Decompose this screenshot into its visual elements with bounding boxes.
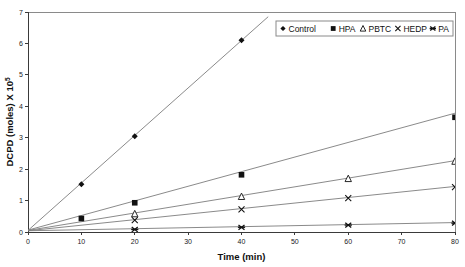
points-hpa — [79, 114, 458, 221]
data-point — [239, 206, 245, 212]
data-point — [452, 114, 458, 120]
legend: ControlHPAPBTCHEDPPA — [276, 21, 453, 36]
points-hedp — [132, 184, 458, 223]
series-hpa — [28, 113, 455, 230]
x-tick-label: 20 — [131, 238, 139, 245]
x-axis-ticks: 01020304050607080 — [26, 232, 459, 245]
y-tick-label: 6 — [19, 40, 23, 47]
y-tick-label: 7 — [19, 9, 23, 16]
legend-label: HEDP — [403, 24, 427, 34]
x-tick-label: 50 — [291, 238, 299, 245]
x-tick-label: 0 — [26, 238, 30, 245]
data-point — [131, 227, 138, 232]
data-point — [345, 223, 352, 228]
x-tick-label: 80 — [451, 238, 459, 245]
y-tick-label: 3 — [19, 134, 23, 141]
y-axis-title: DCPD (moles) X 105 — [4, 77, 15, 167]
trendline — [28, 113, 455, 230]
legend-label: HPA — [339, 24, 356, 34]
points-pbtc — [132, 158, 459, 217]
data-point — [78, 181, 84, 187]
x-axis-title: Time (min) — [218, 251, 266, 262]
data-point — [132, 200, 138, 206]
trendline — [28, 17, 268, 231]
y-tick-label: 4 — [19, 103, 23, 110]
square-icon — [331, 26, 336, 31]
x-tick-label: 60 — [344, 238, 352, 245]
data-point — [238, 225, 245, 230]
legend-label: PBTC — [369, 24, 392, 34]
y-tick-label: 1 — [19, 197, 23, 204]
x-tick-label: 30 — [184, 238, 192, 245]
x-tick-label: 40 — [238, 238, 246, 245]
y-tick-label: 5 — [19, 71, 23, 78]
chart-figure: 0123456701020304050607080Time (min)DCPD … — [0, 0, 465, 267]
x-tick-label: 10 — [77, 238, 85, 245]
points-pa — [131, 221, 458, 232]
y-tick-label: 2 — [19, 166, 23, 173]
legend-label: Control — [289, 24, 317, 34]
data-point — [79, 216, 85, 222]
series-control — [28, 17, 268, 231]
legend-label: PA — [438, 24, 449, 34]
y-axis-ticks: 01234567 — [19, 9, 28, 236]
y-tick-label: 0 — [19, 229, 23, 236]
x-tick-label: 70 — [398, 238, 406, 245]
data-point — [239, 172, 245, 178]
series-layer — [28, 17, 459, 232]
